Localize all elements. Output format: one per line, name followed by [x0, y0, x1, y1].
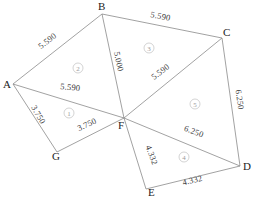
edge-length-label-fd: 6.250: [183, 123, 205, 139]
edge-length-label-bc: 5.590: [150, 9, 172, 23]
edge-length-label-gf: 3.750: [75, 115, 97, 133]
edge-length-label-bf: 5.000: [112, 50, 126, 72]
region-label-5: 5: [193, 101, 197, 109]
region-label-1: 1: [67, 110, 71, 118]
edge-length-label-ab: 5.590: [36, 31, 58, 51]
vertex-label-e: E: [148, 186, 155, 198]
edge-length-label-ag: 3.750: [29, 103, 48, 125]
vertex-label-c: C: [223, 26, 230, 38]
region-label-2: 2: [76, 65, 80, 73]
vertex-label-g: G: [52, 150, 60, 162]
diagram-canvas: 5.5905.5906.2504.3324.3326.2505.5905.000…: [0, 0, 262, 203]
edge-length-label-fc: 5.590: [149, 62, 171, 82]
edge-fc: [124, 38, 222, 118]
vertex-label-f: F: [118, 119, 124, 131]
geometry-diagram: 5.5905.5906.2504.3324.3326.2505.5905.000…: [0, 0, 262, 203]
vertex-label-a: A: [3, 78, 11, 90]
vertex-labels-group: ABCDEFG: [3, 0, 251, 198]
edge-length-label-ef: 4.332: [144, 144, 160, 166]
vertex-label-d: D: [243, 160, 251, 172]
edge-length-label-de: 4.332: [181, 173, 203, 188]
edge-ef: [124, 118, 146, 189]
edge-ab: [13, 14, 102, 84]
edge-length-label-cd: 6.250: [234, 89, 247, 110]
region-label-4: 4: [182, 154, 186, 162]
edge-length-label-af: 5.590: [60, 81, 81, 93]
region-label-3: 3: [147, 45, 151, 53]
vertex-label-b: B: [98, 0, 105, 12]
